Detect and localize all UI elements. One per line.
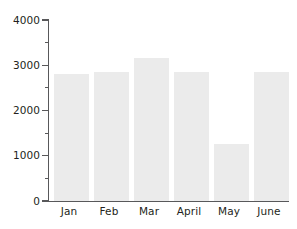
y-axis-tick-label: 1000 bbox=[2, 150, 40, 161]
bar bbox=[174, 72, 209, 201]
bar-chart: 4000 3000 2000 1000 0 JanFebMarAprilMayJ… bbox=[0, 0, 297, 229]
y-axis-labels: 4000 3000 2000 1000 0 bbox=[0, 0, 40, 229]
y-axis-tick-label: 2000 bbox=[2, 105, 40, 116]
x-axis-tick-label: Jan bbox=[49, 206, 89, 217]
bar bbox=[134, 58, 169, 201]
y-axis-tick-label: 3000 bbox=[2, 60, 40, 71]
x-axis-tick-label: June bbox=[249, 206, 289, 217]
x-axis-tick-label: Mar bbox=[129, 206, 169, 217]
x-axis-labels: JanFebMarAprilMayJune bbox=[49, 206, 289, 226]
bar bbox=[54, 74, 89, 201]
bar bbox=[254, 72, 289, 201]
bar bbox=[94, 72, 129, 201]
bar-series bbox=[49, 20, 289, 201]
x-axis-tick-label: Feb bbox=[89, 206, 129, 217]
x-axis-tick-label: April bbox=[169, 206, 209, 217]
x-axis-tick-label: May bbox=[209, 206, 249, 217]
bar bbox=[214, 144, 249, 201]
y-axis-tick-label: 4000 bbox=[2, 15, 40, 26]
y-axis-tick-label: 0 bbox=[2, 196, 40, 207]
